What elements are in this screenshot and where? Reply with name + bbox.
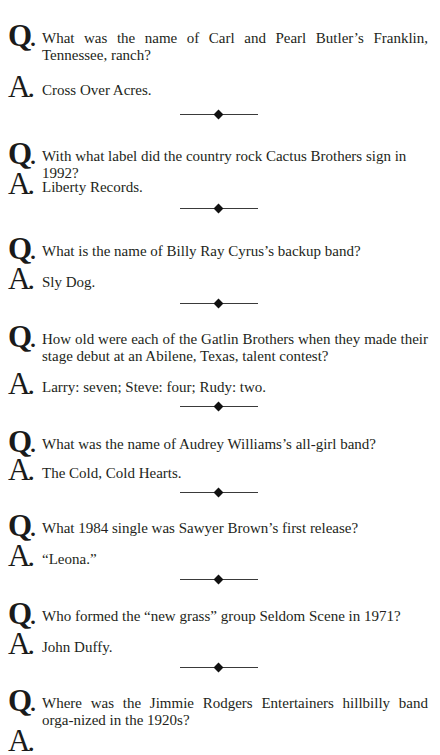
answer-1: A. Cross Over Acres. (8, 73, 428, 99)
question-text: What was the name of Audrey Williams’s a… (42, 428, 428, 453)
answer-marker: A. (8, 265, 33, 296)
diamond-ornament-icon (214, 299, 224, 309)
answer-text: Cross Over Acres. (42, 73, 428, 99)
section-divider (180, 575, 258, 584)
question-text: Where was the Jimmie Rodgers Entertainer… (42, 687, 428, 728)
question-marker: Q. (8, 323, 35, 354)
answer-marker: A. (8, 727, 33, 755)
question-5: Q. What was the name of Audrey Williams’… (8, 428, 428, 453)
answer-text: Sly Dog. (42, 265, 428, 291)
question-text: What is the name of Billy Ray Cyrus’s ba… (42, 235, 428, 260)
answer-4: A. Larry: seven; Steve: four; Rudy: two. (8, 370, 428, 396)
diamond-ornament-icon (214, 575, 224, 585)
answer-marker: A. (8, 630, 33, 661)
answer-text: Larry: seven; Steve: four; Rudy: two. (42, 370, 428, 396)
section-divider (180, 663, 258, 672)
diamond-ornament-icon (214, 663, 224, 673)
question-1: Q. What was the name of Carl and Pearl B… (8, 22, 428, 63)
question-marker: Q. (8, 687, 35, 718)
question-7: Q. Who formed the “new grass” group Seld… (8, 600, 428, 625)
answer-marker: A. (8, 542, 33, 573)
answer-8: A. (8, 727, 428, 736)
answer-2: A. Liberty Records. (8, 170, 428, 196)
answer-marker: A. (8, 456, 33, 487)
answer-marker: A. (8, 73, 33, 104)
section-divider (180, 299, 258, 308)
answer-text: John Duffy. (42, 630, 428, 656)
diamond-ornament-icon (214, 110, 224, 120)
question-text: Who formed the “new grass” group Seldom … (42, 600, 428, 625)
diamond-ornament-icon (214, 204, 224, 214)
question-text: What 1984 single was Sawyer Brown’s firs… (42, 512, 428, 537)
answer-marker: A. (8, 170, 33, 201)
question-text: What was the name of Carl and Pearl Butl… (42, 22, 428, 63)
section-divider (180, 488, 258, 497)
diamond-ornament-icon (214, 488, 224, 498)
answer-text: “Leona.” (42, 542, 428, 568)
question-8: Q. Where was the Jimmie Rodgers Entertai… (8, 687, 428, 728)
answer-text: Liberty Records. (42, 170, 428, 196)
section-divider (180, 204, 258, 213)
answer-7: A. John Duffy. (8, 630, 428, 656)
diamond-ornament-icon (214, 402, 224, 412)
question-marker: Q. (8, 22, 35, 53)
answer-marker: A. (8, 370, 33, 401)
answer-text: The Cold, Cold Hearts. (42, 456, 428, 482)
question-3: Q. What is the name of Billy Ray Cyrus’s… (8, 235, 428, 260)
question-4: Q. How old were each of the Gatlin Broth… (8, 323, 428, 364)
section-divider (180, 402, 258, 411)
section-divider (180, 110, 258, 119)
question-6: Q. What 1984 single was Sawyer Brown’s f… (8, 512, 428, 537)
answer-3: A. Sly Dog. (8, 265, 428, 291)
answer-6: A. “Leona.” (8, 542, 428, 568)
question-text: How old were each of the Gatlin Brothers… (42, 323, 428, 364)
answer-5: A. The Cold, Cold Hearts. (8, 456, 428, 482)
answer-text (42, 727, 428, 736)
